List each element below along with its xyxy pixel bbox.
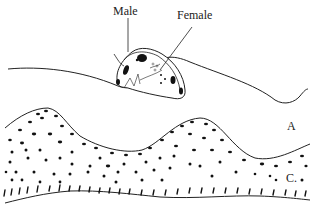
- layer-c-label: C.: [286, 171, 297, 185]
- male-label: Male: [113, 4, 138, 18]
- layer-a-label: A: [287, 119, 296, 133]
- female-leader-line: [160, 27, 192, 70]
- tissue-cells: [5, 110, 308, 184]
- tissue-lower-boundary: [5, 191, 310, 203]
- worm-pair-illustration: [114, 48, 185, 98]
- female-label: Female: [177, 8, 212, 22]
- diagram-canvas: Male Female A C.: [0, 0, 315, 211]
- basal-cells: [4, 185, 306, 196]
